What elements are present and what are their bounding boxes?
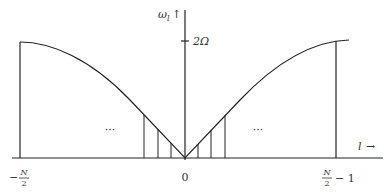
x-tick-right-suffix: − 1 [335,172,355,185]
x-axis-label: l [358,140,362,153]
x-tick-right-den: 2 [324,179,329,188]
ellipsis-left: ··· [105,124,116,137]
y-axis-arrow: ↑ [172,8,181,21]
x-tick-left-num: N [20,168,29,177]
x-axis-arrow: → [366,140,375,153]
x-tick-left-den: 2 [21,179,26,188]
y-axis-label: ωl [158,8,170,23]
ellipsis-right: ··· [253,124,264,137]
x-tick-left-sign: − [9,171,18,184]
x-tick-right-num: N [323,168,332,177]
x-tick-center: 0 [182,171,189,184]
y-tick-label: 2Ω [192,35,209,48]
dispersion-diagram: ··· ··· ωl ↑ 2Ω l → − N 2 0 N 2 − 1 [0,0,387,196]
